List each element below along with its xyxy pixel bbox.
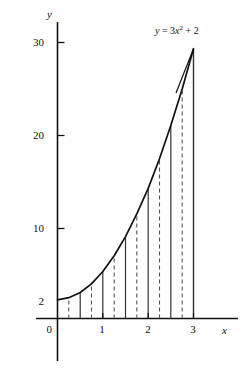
- equation-label: y = 3x2 + 2: [155, 25, 199, 36]
- y-tick-label-20: 20: [22, 130, 44, 141]
- equation-constant: 2: [194, 25, 199, 36]
- equation-lhs: y: [155, 25, 159, 36]
- x-tick-label-1: 1: [94, 324, 110, 335]
- equation-leader-line: [176, 49, 194, 93]
- figure-container: y x 30 20 10 2 0 1 2 3 y = 3x2 + 2: [0, 0, 242, 383]
- x-tick-label-2: 2: [140, 324, 156, 335]
- x-axis-ticks: [103, 313, 194, 319]
- y-axis-ticks: [58, 43, 65, 229]
- x-tick-label-3: 3: [185, 324, 201, 335]
- y-tick-label-10: 10: [22, 223, 44, 234]
- origin-label: 0: [38, 324, 52, 335]
- y-tick-label-30: 30: [22, 37, 44, 48]
- y-axis-label: y: [47, 9, 52, 20]
- y-intercept-label: 2: [28, 296, 44, 307]
- equation-plus: +: [186, 25, 192, 36]
- ordinate-lines: [69, 49, 194, 319]
- x-axis-label: x: [222, 325, 227, 336]
- function-plot: [0, 0, 242, 383]
- equation-equals: =: [162, 25, 168, 36]
- equation-exponent: 2: [180, 24, 184, 32]
